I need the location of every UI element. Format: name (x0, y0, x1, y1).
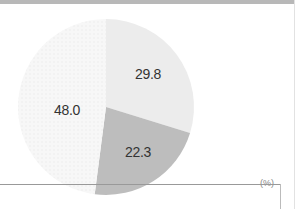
slice-label-29-8: 29.8 (135, 66, 161, 82)
bottom-rule (0, 184, 281, 185)
pie-chart (0, 0, 302, 209)
bottom-rule-end (280, 184, 281, 209)
slice-label-48-0: 48.0 (54, 102, 80, 118)
unit-label: (%) (260, 178, 274, 188)
slice-label-22-3: 22.3 (125, 144, 151, 160)
